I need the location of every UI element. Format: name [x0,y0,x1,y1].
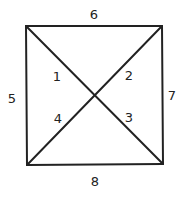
region-label-3: 3 [125,110,133,125]
edge-bottom [27,164,163,165]
edge-label-bottom: 8 [91,174,99,189]
edge-label-left: 5 [8,91,16,106]
region-label-4: 4 [54,111,62,126]
edge-right [162,26,163,164]
region-label-2: 2 [125,68,133,83]
edge-left [26,26,27,165]
region-label-1: 1 [53,69,61,84]
edge-label-right: 7 [168,88,176,103]
square-diagram: 6 7 8 5 1 2 3 4 [0,0,184,198]
edge-label-top: 6 [90,7,98,22]
